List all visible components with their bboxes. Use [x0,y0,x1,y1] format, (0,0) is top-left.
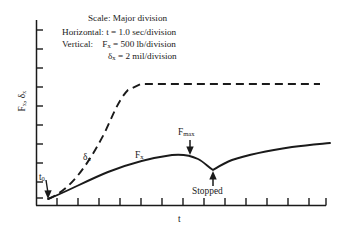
scale-vertical-force-line: Vertical: Fx = 500 lb/division [62,39,176,52]
y-axis-label-deflection-subscript: x [20,91,27,94]
x-axis-label: t [178,214,181,224]
scale-vertical-deflection-line: δx = 2 mil/division [108,51,177,64]
scale-horizontal-line: Horizontal: t = 1.0 sec/division [62,27,176,38]
scale-vertical-force-prefix: Vertical: F [62,39,107,49]
y-axis-label-force-subscript: x [20,103,27,106]
scale-vertical-deflection-value: = 2 mil/division [116,51,177,61]
force-curve-label-subscript: x [140,153,143,160]
curve-deflection-delta-x [48,84,320,199]
fmax-label-subscript: max [183,130,194,137]
stopped-label: Stopped [192,186,223,196]
fmax-label: Fmax [178,127,195,137]
t0-arrow [44,180,51,199]
fmax-arrow [186,140,193,155]
stopped-arrow [209,171,216,186]
y-axis-label: Fx, δx [17,81,27,121]
deflection-curve-label-subscript: x [87,155,90,162]
x-axis-ticks [57,198,326,206]
y-axis-label-deflection: δ [17,94,27,98]
scale-vertical-force-value: = 500 lb/division [111,39,176,49]
t0-label: t0 [39,172,45,182]
force-curve-label: Fx [135,150,144,160]
y-axis-label-separator: , [17,98,27,103]
figure-force-deflection-vs-time: Scale: Major division Horizontal: t = 1.… [0,0,344,235]
t0-label-subscript: 0 [42,175,45,182]
scale-heading: Scale: Major division [88,13,167,24]
deflection-curve-label: δx [83,152,91,162]
y-axis-label-force: F [17,106,27,111]
